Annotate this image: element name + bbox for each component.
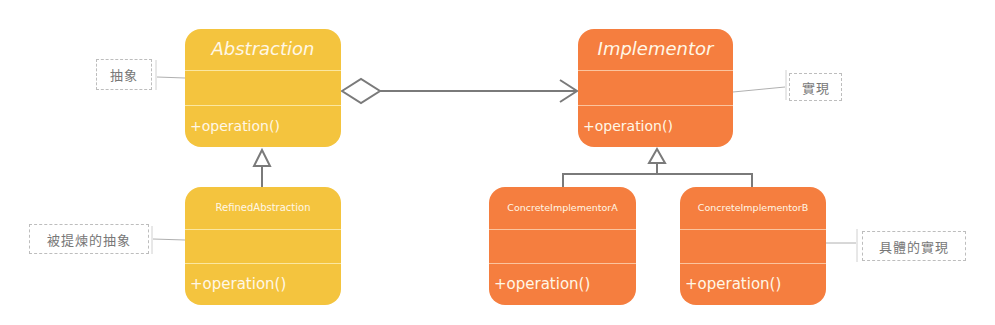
operation: +operation()	[190, 275, 286, 293]
note-refined-abstraction: 被提煉的抽象	[29, 224, 149, 254]
divider	[185, 229, 341, 230]
class-refined-abstraction[interactable]: RefinedAbstraction +operation()	[185, 187, 341, 305]
class-name: RefinedAbstraction	[185, 202, 341, 213]
divider	[578, 105, 733, 106]
class-name: ConcreteImplementorA	[489, 202, 636, 213]
divider	[578, 70, 733, 71]
note-connector-implementor	[733, 87, 785, 92]
note-connector-abstraction	[157, 77, 185, 78]
generalization-branch	[563, 174, 752, 187]
aggregation-diamond-icon	[342, 79, 380, 103]
inheritance-triangle-icon	[649, 149, 665, 163]
note-connector-refined	[153, 239, 185, 240]
divider	[489, 229, 636, 230]
operation: +operation()	[685, 275, 781, 293]
class-name: Implementor	[578, 38, 733, 59]
class-implementor[interactable]: Implementor +operation()	[578, 29, 733, 147]
class-abstraction[interactable]: Abstraction +operation()	[185, 29, 341, 147]
divider	[185, 70, 341, 71]
class-name: Abstraction	[185, 38, 341, 59]
class-concrete-implementor-a[interactable]: ConcreteImplementorA +operation()	[489, 187, 636, 305]
class-name: ConcreteImplementorB	[680, 202, 826, 213]
divider	[185, 105, 341, 106]
note-abstraction: 抽象	[96, 59, 152, 90]
divider	[680, 229, 826, 230]
inheritance-triangle-icon	[254, 150, 270, 166]
divider	[489, 263, 636, 264]
note-implementor: 實現	[789, 73, 842, 101]
operation: +operation()	[190, 118, 280, 134]
class-concrete-implementor-b[interactable]: ConcreteImplementorB +operation()	[680, 187, 826, 305]
divider	[680, 263, 826, 264]
divider	[185, 263, 341, 264]
operation: +operation()	[494, 275, 590, 293]
note-concrete-implementor: 具體的實現	[862, 231, 966, 261]
operation: +operation()	[583, 118, 673, 134]
